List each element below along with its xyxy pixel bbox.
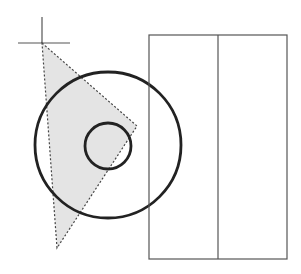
background: [0, 0, 301, 274]
diagram-canvas: [0, 0, 301, 274]
